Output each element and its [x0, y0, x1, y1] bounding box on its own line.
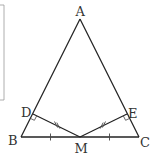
label-b: B — [8, 133, 18, 148]
frame-border — [0, 5, 4, 100]
label-m: M — [75, 141, 88, 156]
label-e: E — [128, 106, 138, 121]
label-a: A — [75, 4, 86, 19]
label-d: D — [21, 105, 31, 120]
label-c: C — [140, 135, 150, 150]
geometry-diagram: A B C M D E — [0, 0, 156, 158]
